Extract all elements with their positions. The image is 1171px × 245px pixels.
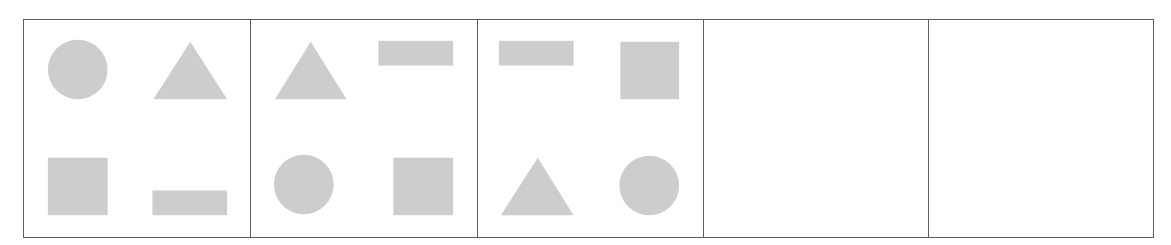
circle-shape [48,40,108,99]
panel-1 [24,20,251,237]
panel-3 [478,20,704,237]
rectangle-shape [152,190,227,215]
panel-4-empty [704,20,929,237]
rectangle-shape [378,41,453,66]
panel-2-canvas [251,20,477,237]
square-shape [620,42,679,99]
circle-shape [619,156,679,215]
rectangle-shape [499,41,574,66]
shape-sequence-strip [23,19,1154,238]
panel-5-empty [929,20,1153,237]
circle-shape [274,155,334,214]
panel-2 [251,20,478,237]
triangle-shape [275,42,347,99]
triangle-shape [153,42,227,99]
square-shape [48,158,108,215]
triangle-shape [501,158,574,215]
panel-3-canvas [478,20,703,237]
panel-1-canvas [24,20,250,237]
square-shape [393,158,453,215]
